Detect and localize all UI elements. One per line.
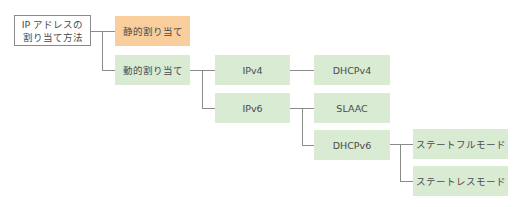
root-line2: 割り当て方法 — [23, 31, 83, 44]
static-assignment-label: 静的割り当て — [123, 25, 183, 38]
ipv4-label: IPv4 — [242, 64, 262, 77]
connector-ipv6-dhcpv6 — [302, 145, 314, 146]
connector-dynamic-ipv6 — [202, 108, 215, 109]
dhcpv4-label: DHCPv4 — [333, 64, 372, 77]
root-node: IP アドレスの 割り当て方法 — [14, 15, 91, 46]
slaac-label: SLAAC — [336, 102, 367, 115]
dynamic-assignment-label: 動的割り当て — [123, 64, 183, 77]
connector-root-dynamic — [102, 70, 115, 71]
stateless-mode-label: ステートレスモード — [416, 175, 506, 188]
connector-root-static — [91, 31, 115, 32]
connector-dynamic-branch — [202, 70, 203, 108]
connector-dhcpv6-stateless — [400, 181, 413, 182]
connector-dhcpv6-branch — [400, 144, 401, 181]
dynamic-assignment-node: 動的割り当て — [115, 55, 190, 85]
connector-ipv6-branch — [302, 108, 303, 145]
stateful-mode-label: ステートフルモード — [416, 138, 506, 151]
ipv6-label: IPv6 — [242, 102, 262, 115]
static-assignment-node: 静的割り当て — [115, 16, 190, 46]
stateful-mode-node: ステートフルモード — [413, 129, 508, 159]
dhcpv4-node: DHCPv4 — [314, 55, 390, 85]
ipv4-node: IPv4 — [215, 55, 290, 85]
slaac-node: SLAAC — [314, 93, 390, 123]
ipv6-node: IPv6 — [215, 93, 290, 123]
connector-dhcpv6-stateful — [390, 144, 413, 145]
connector-ipv4-dhcpv4 — [290, 70, 314, 71]
stateless-mode-node: ステートレスモード — [413, 166, 508, 196]
dhcpv6-node: DHCPv6 — [314, 130, 390, 160]
root-line1: IP アドレスの — [22, 18, 84, 31]
dhcpv6-label: DHCPv6 — [333, 139, 372, 152]
connector-root-branch — [102, 31, 103, 70]
